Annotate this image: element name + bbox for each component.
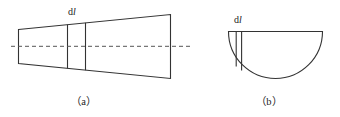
figure-container: dl dl （a） （b） (0, 0, 340, 117)
panel-caption-b: （b） (256, 97, 282, 108)
panel-caption-a: （a） (71, 97, 96, 108)
dl-label-b-italic: l (239, 14, 242, 25)
panel-b-group (229, 32, 323, 79)
panel-a-group (11, 15, 190, 79)
figure-drawing (0, 0, 340, 117)
element-length-label-b: dl (234, 15, 242, 25)
semicircle-outline (229, 32, 323, 79)
dl-label-a-italic: l (73, 6, 76, 17)
element-length-label-a: dl (68, 7, 76, 17)
